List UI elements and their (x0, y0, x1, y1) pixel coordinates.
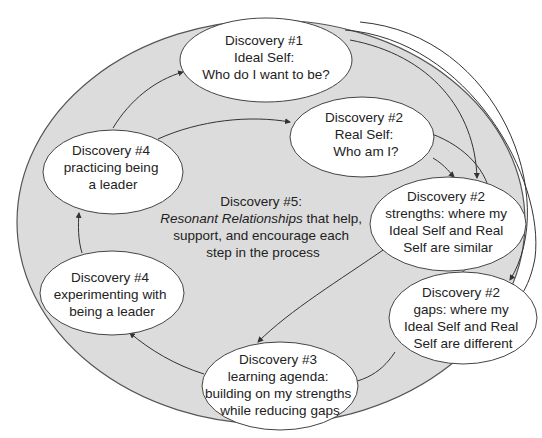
center-line2-rest: that help, (303, 211, 362, 226)
node-label: Discovery #1 (225, 33, 303, 48)
center-italic-term: Resonant Relationships (160, 211, 303, 226)
node-label: experimenting with (54, 287, 167, 302)
node-label: Who am I? (333, 144, 398, 159)
node-label: Discovery #4 (71, 270, 150, 285)
node-label: Discovery #2 (325, 110, 403, 125)
center-line4: step in the process (206, 245, 320, 260)
self-directed-learning-diagram: Discovery #1 Ideal Self: Who do I want t… (0, 0, 542, 438)
node-gaps: Discovery #2 gaps: where my Ideal Self a… (389, 272, 537, 364)
center-line3: support, and encourage each (173, 228, 349, 243)
node-label: gaps: where my (413, 302, 509, 317)
node-label: learning agenda: (228, 369, 329, 384)
node-label: building on my strengths (205, 386, 352, 401)
node-practicing: Discovery #4 practicing being a leader (43, 130, 183, 214)
node-label: practicing being (64, 160, 159, 175)
node-label: Discovery #3 (239, 352, 317, 367)
node-label: Ideal Self and Real (404, 319, 518, 334)
node-label: Discovery #4 (72, 143, 151, 158)
node-label: strengths: where my (385, 206, 507, 221)
center-title: Discovery #5: (220, 194, 302, 209)
node-ideal-self: Discovery #1 Ideal Self: Who do I want t… (180, 18, 352, 102)
node-label: being a leader (69, 304, 155, 319)
node-label: Self are similar (403, 240, 493, 255)
node-label: Discovery #2 (407, 189, 485, 204)
node-experimenting: Discovery #4 experimenting with being a … (40, 251, 184, 335)
node-real-self: Discovery #2 Real Self: Who am I? (290, 97, 434, 177)
node-label: a leader (89, 177, 138, 192)
node-label: Ideal Self: (234, 50, 294, 65)
node-learning-agenda: Discovery #3 learning agenda: building o… (202, 342, 358, 430)
node-label: while reducing gaps (219, 403, 340, 418)
node-strengths: Discovery #2 strengths: where my Ideal S… (370, 177, 526, 271)
node-label: Discovery #2 (422, 285, 500, 300)
node-label: Real Self: (335, 127, 394, 142)
node-label: Ideal Self and Real (389, 223, 503, 238)
node-label: Who do I want to be? (202, 67, 330, 82)
svg-text:Discovery #2 Real Self:: Discovery #2 Real Self: Who am I? (325, 110, 407, 159)
svg-text:Discovery #4 experimenti: Discovery #4 experimenting with being a … (54, 270, 170, 319)
node-label: Self are different (414, 336, 513, 351)
